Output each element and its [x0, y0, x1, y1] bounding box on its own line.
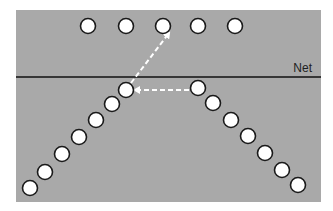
player-circle: [275, 163, 290, 178]
player-circle: [55, 147, 70, 162]
player-circle: [291, 178, 306, 193]
player-circle: [258, 146, 273, 161]
player-circle: [81, 19, 96, 34]
player-circle: [228, 19, 243, 34]
player-circle: [72, 130, 87, 145]
player-circle: [191, 81, 206, 96]
player-circle: [105, 97, 120, 112]
player-circle: [38, 165, 53, 180]
player-circle: [224, 113, 239, 128]
player-circle: [119, 83, 134, 98]
player-circle: [206, 96, 221, 111]
player-circle: [241, 129, 256, 144]
player-circle: [119, 19, 134, 34]
volleyball-net-diagram: Net: [0, 0, 333, 211]
player-circle: [23, 181, 38, 196]
player-circle: [89, 113, 104, 128]
player-circle: [191, 19, 206, 34]
net-label: Net: [293, 61, 312, 75]
player-circle: [156, 19, 171, 34]
